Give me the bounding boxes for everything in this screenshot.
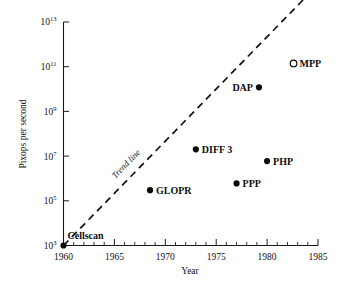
data-point-hitarea[interactable] — [143, 183, 157, 197]
data-point[interactable]: GLOPR — [143, 183, 192, 197]
data-point[interactable]: PPP — [230, 176, 261, 190]
y-tick-label: 107 — [44, 150, 58, 162]
trend-line-group: Trend line — [64, 0, 325, 246]
data-point-label: PHP — [273, 156, 293, 167]
data-point[interactable]: DIFF 3 — [189, 142, 232, 156]
y-tick-label: 105 — [44, 194, 57, 206]
trend-line — [64, 0, 325, 246]
axis-lines — [64, 22, 319, 246]
x-axis: 196019651970197519801985 — [54, 239, 328, 262]
x-tick-label: 1985 — [309, 252, 328, 262]
data-point-hitarea[interactable] — [287, 56, 301, 70]
y-axis-title: Pixops per second — [18, 99, 28, 168]
x-tick-label: 1965 — [105, 252, 124, 262]
data-point[interactable]: DAP — [232, 80, 266, 94]
scatter-plot-svg: 10310510710910111013 1960196519701975198… — [0, 0, 340, 291]
data-point[interactable]: MPP — [287, 56, 322, 70]
data-point[interactable]: PHP — [260, 154, 293, 168]
y-axis: 10310510710910111013 — [41, 15, 70, 251]
chart-figure: 10310510710910111013 1960196519701975198… — [0, 0, 340, 291]
data-point-label: DAP — [232, 82, 253, 93]
trend-line-label: Trend line — [110, 147, 143, 180]
data-point-hitarea[interactable] — [189, 142, 203, 156]
data-point-label: PPP — [243, 178, 261, 189]
x-axis-title: Year — [181, 266, 199, 276]
x-tick-label: 1975 — [207, 252, 226, 262]
y-tick-label: 109 — [44, 105, 57, 117]
data-point-hitarea[interactable] — [260, 154, 274, 168]
x-tick-label: 1980 — [258, 252, 277, 262]
data-point-label: Cellscan — [68, 230, 105, 241]
y-tick-label: 1011 — [41, 60, 57, 72]
data-point-label: MPP — [300, 58, 322, 69]
x-tick-label: 1960 — [54, 252, 73, 262]
data-point-hitarea[interactable] — [252, 80, 266, 94]
data-points: CellscanGLOPRDIFF 3PPPDAPPHPMPP — [57, 56, 322, 252]
y-tick-label: 103 — [44, 239, 57, 251]
data-point-label: GLOPR — [156, 185, 192, 196]
data-point-hitarea[interactable] — [57, 239, 71, 253]
x-tick-label: 1970 — [156, 252, 175, 262]
data-point-hitarea[interactable] — [230, 176, 244, 190]
axes — [64, 22, 319, 246]
y-tick-label: 1013 — [41, 15, 57, 27]
data-point-label: DIFF 3 — [202, 144, 232, 155]
